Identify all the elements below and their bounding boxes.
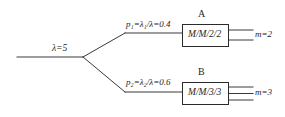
queueing-network-diagram: λ=5 p₁=λ₁/λ=0.4 p₂=λ₂/λ=0.6 A B M/M/2/2 …	[0, 0, 285, 117]
node-a-kendall-notation: M/M/2/2	[188, 30, 221, 40]
branch-upper-diagonal-line	[83, 33, 125, 57]
branch-lower-probability-label: p₂=λ₂/λ=0.6	[126, 78, 170, 87]
node-b-name-label: B	[198, 67, 205, 77]
arrival-rate-label: λ=5	[52, 44, 67, 54]
branch-lower-diagonal-line	[83, 57, 125, 92]
node-b-kendall-notation: M/M/3/3	[188, 88, 221, 98]
node-a-server-count-label: m=2	[255, 30, 272, 39]
branch-upper-probability-label: p₁=λ₁/λ=0.4	[126, 20, 170, 29]
node-a-name-label: A	[198, 9, 205, 19]
diagram-lines-layer	[0, 0, 285, 117]
node-b-server-count-label: m=3	[255, 88, 272, 97]
